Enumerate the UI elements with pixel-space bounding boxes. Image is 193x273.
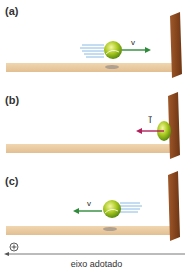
motion-lines xyxy=(80,45,104,57)
panel-b xyxy=(6,92,180,159)
panel-label-a: (a) xyxy=(5,5,18,17)
panel-label-b: (b) xyxy=(5,94,19,106)
diagram-canvas xyxy=(0,0,193,273)
floor xyxy=(6,226,178,235)
ball-shadow xyxy=(105,65,119,69)
axis-label: eixo adotado xyxy=(0,259,193,269)
panel-c xyxy=(4,171,185,256)
floor xyxy=(6,144,174,153)
impulse-label: I⃗ xyxy=(149,116,151,125)
velocity-label-c: v xyxy=(87,199,91,208)
tennis-ball xyxy=(103,200,121,218)
velocity-label-a: v xyxy=(131,38,135,47)
wall xyxy=(170,12,182,78)
tennis-ball xyxy=(104,41,122,59)
wall xyxy=(168,171,180,241)
panel-label-c: (c) xyxy=(5,175,18,187)
floor xyxy=(6,63,178,72)
motion-lines xyxy=(120,203,142,212)
ball-shadow xyxy=(103,227,117,231)
panel-a xyxy=(6,12,182,78)
